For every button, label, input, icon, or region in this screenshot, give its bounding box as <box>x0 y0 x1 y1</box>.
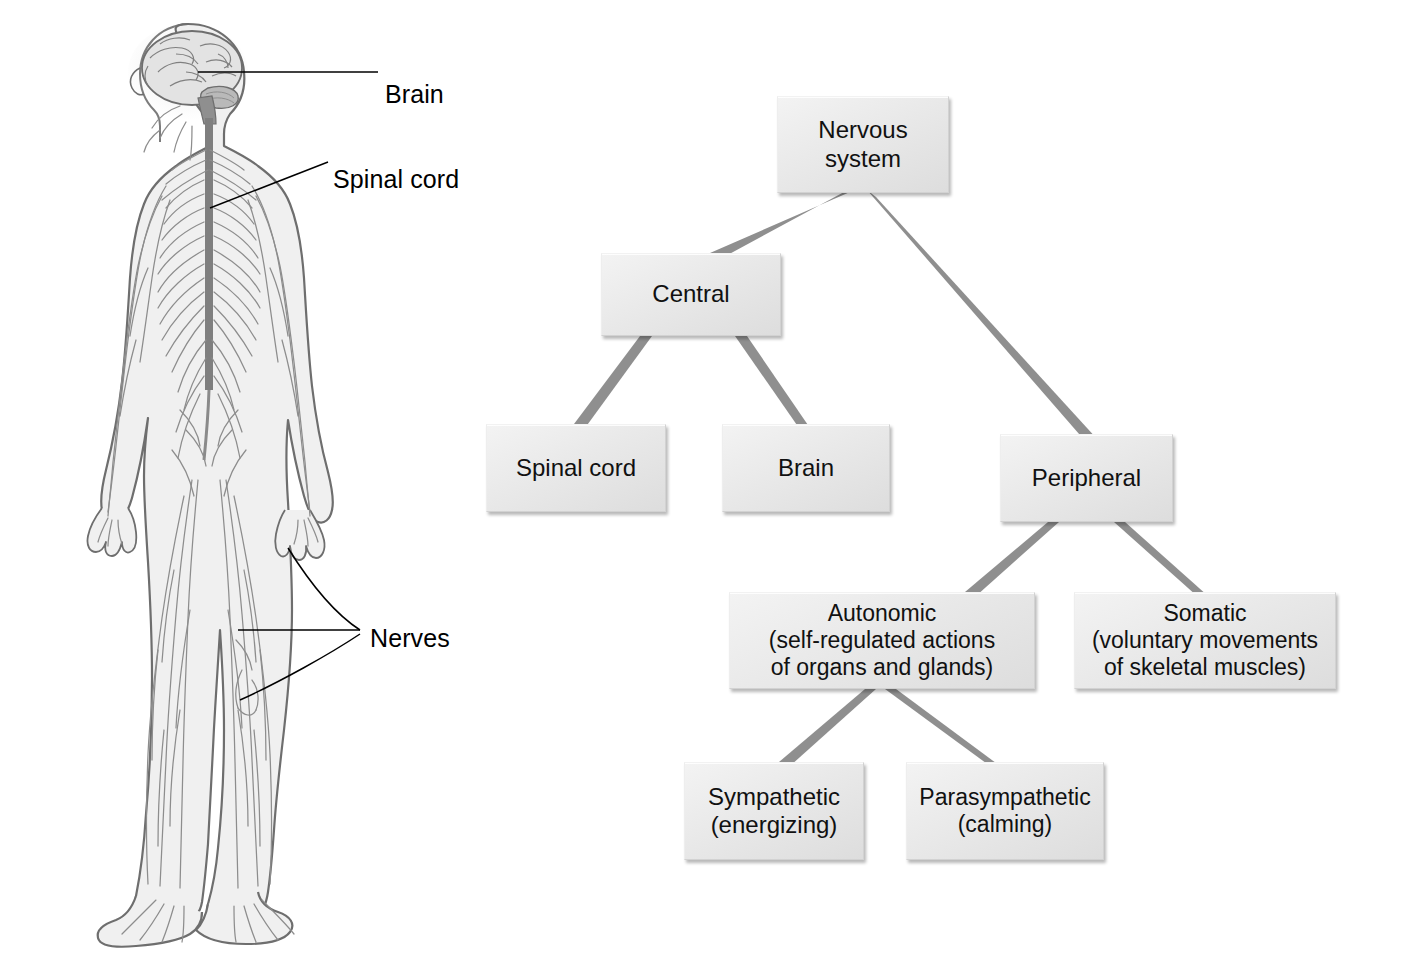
connector-nervous-system-peripheral <box>867 190 1098 442</box>
nervous-system-hierarchy-chart: Nervous system Central Peripheral Spinal… <box>0 0 1411 973</box>
node-sympathetic-label: Sympathetic (energizing) <box>702 783 846 840</box>
node-spinal-cord[interactable]: Spinal cord <box>486 424 666 512</box>
node-nervous-system-label: Nervous system <box>812 116 913 173</box>
node-autonomic[interactable]: Autonomic (self-regulated actions of org… <box>729 592 1035 689</box>
node-somatic[interactable]: Somatic (voluntary movements of skeletal… <box>1074 592 1336 689</box>
node-central-label: Central <box>646 280 735 308</box>
node-central[interactable]: Central <box>601 253 781 336</box>
connector-central-spinal-cord <box>574 336 652 428</box>
node-sympathetic[interactable]: Sympathetic (energizing) <box>684 762 864 860</box>
node-brain-label: Brain <box>772 454 840 482</box>
diagram-canvas: Brain Spinal cord Nerves <box>0 0 1411 973</box>
connector-peripheral-somatic <box>1114 522 1208 596</box>
connector-nervous-system-central <box>710 185 857 258</box>
node-spinal-cord-label: Spinal cord <box>510 454 642 482</box>
node-parasympathetic[interactable]: Parasympathetic (calming) <box>906 762 1104 860</box>
connector-peripheral-autonomic <box>965 522 1059 596</box>
node-brain[interactable]: Brain <box>722 424 890 512</box>
node-parasympathetic-label: Parasympathetic (calming) <box>913 784 1096 838</box>
node-nervous-system[interactable]: Nervous system <box>777 96 949 193</box>
node-peripheral-label: Peripheral <box>1026 464 1147 492</box>
node-somatic-label: Somatic (voluntary movements of skeletal… <box>1086 600 1324 681</box>
node-peripheral[interactable]: Peripheral <box>1000 434 1173 522</box>
connector-autonomic-sympathetic <box>779 689 876 766</box>
connector-central-brain <box>735 336 810 428</box>
connector-autonomic-parasympathetic <box>885 689 1000 766</box>
node-autonomic-label: Autonomic (self-regulated actions of org… <box>763 600 1001 681</box>
